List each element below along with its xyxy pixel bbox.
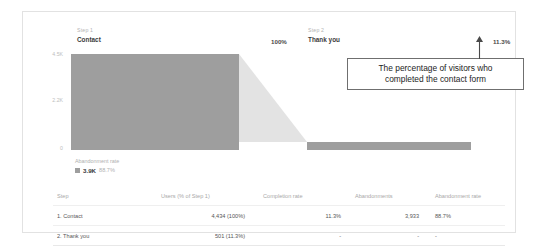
step-2-percent: 11.3%	[493, 38, 510, 45]
annotation-text: The percentage of visitors who completed…	[373, 63, 497, 85]
cell-abandonment-rate: 88.7%	[431, 213, 505, 219]
step-1-kicker: Step 1	[77, 28, 101, 34]
funnel-report-card: Step 1 Contact 100% Step 2 Thank you 11.…	[22, 11, 516, 233]
legend-title: Abandonment rate	[75, 158, 119, 165]
screenshot-root: Step 1 Contact 100% Step 2 Thank you 11.…	[0, 0, 538, 247]
column-header-abandonment-rate: Abandonment rate	[431, 193, 505, 199]
table-row[interactable]: 1. Contact 4,434 (100%) 11.3% 3,933 88.7…	[53, 206, 505, 226]
cell-users: 501 (11.3%)	[161, 233, 263, 239]
annotation-arrow-icon	[475, 36, 484, 59]
funnel-step-2-header: Step 2 Thank you	[308, 28, 340, 43]
funnel-connector-slope	[239, 54, 307, 142]
table-row[interactable]: 2. Thank you 501 (11.3%) - - -	[53, 226, 505, 246]
cell-users: 4,434 (100%)	[161, 213, 263, 219]
annotation-line-1: The percentage of visitors who	[378, 63, 492, 73]
cell-completion-rate: 11.3%	[263, 213, 355, 219]
chart-y-axis: 4.5K 2.2K 0	[23, 54, 67, 152]
cell-step: 1. Contact	[53, 213, 161, 219]
cell-step: 2. Thank you	[53, 233, 161, 239]
funnel-data-table: Step Users (% of Step 1) Completion rate…	[53, 186, 505, 246]
funnel-bar-step-1	[71, 54, 239, 150]
column-header-step: Step	[53, 193, 161, 199]
cell-abandonment-rate: -	[431, 233, 505, 239]
legend-value: 3.9K	[83, 167, 96, 175]
cell-abandonments: -	[355, 233, 431, 239]
y-tick-label-0: 4.5K	[52, 51, 63, 57]
cell-completion-rate: -	[263, 233, 355, 239]
y-tick-label-2: 0	[60, 145, 63, 151]
column-header-abandonments: Abandonments	[355, 193, 431, 199]
step-1-percent: 100%	[271, 38, 287, 45]
column-header-users: Users (% of Step 1)	[161, 193, 263, 199]
table-header-row: Step Users (% of Step 1) Completion rate…	[53, 186, 505, 206]
legend-percent: 88.7%	[99, 167, 115, 174]
cell-abandonments: 3,933	[355, 213, 431, 219]
y-tick-label-1: 2.2K	[52, 97, 63, 103]
annotation-callout: The percentage of visitors who completed…	[347, 58, 524, 90]
step-2-title: Thank you	[308, 36, 340, 43]
chart-legend: Abandonment rate 3.9K 88.7%	[75, 158, 119, 175]
funnel-bar-step-2	[307, 142, 471, 150]
step-1-title: Contact	[77, 36, 101, 43]
funnel-step-1-header: Step 1 Contact	[77, 28, 101, 43]
step-2-kicker: Step 2	[308, 28, 340, 34]
column-header-completion-rate: Completion rate	[263, 193, 355, 199]
legend-row: 3.9K 88.7%	[75, 167, 119, 175]
legend-swatch-icon	[75, 168, 80, 173]
annotation-line-2: completed the contact form	[385, 74, 486, 84]
